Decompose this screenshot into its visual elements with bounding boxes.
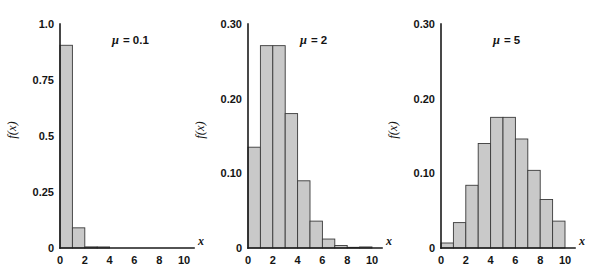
bar xyxy=(491,117,503,248)
bar xyxy=(72,228,84,248)
y-tick-label: 0.75 xyxy=(33,74,54,86)
bars-group xyxy=(60,45,110,248)
bar xyxy=(503,117,515,248)
bar xyxy=(322,239,334,248)
x-tick-label: 8 xyxy=(344,254,350,266)
poisson-distribution-figure: 00.250.50.751.00246810xf(x)μ= 0.100.100.… xyxy=(0,0,595,280)
x-tick-label: 8 xyxy=(537,254,543,266)
y-tick-label: 1.0 xyxy=(39,18,54,30)
y-tick-labels: 00.100.200.30 xyxy=(221,18,242,254)
x-tick-label: 0 xyxy=(57,254,63,266)
bar xyxy=(273,46,285,248)
x-tick-label: 2 xyxy=(463,254,469,266)
mu-equals-value: = 5 xyxy=(504,34,521,46)
y-tick-label: 0 xyxy=(236,242,242,254)
x-tick-label: 6 xyxy=(512,254,518,266)
y-tick-label: 0.30 xyxy=(414,18,435,30)
bar xyxy=(478,143,490,248)
mu-annotation: μ= 5 xyxy=(492,33,521,47)
x-axis-label: x xyxy=(385,234,392,248)
mu-annotation: μ= 0.1 xyxy=(111,33,149,47)
y-tick-label: 0.20 xyxy=(414,93,435,105)
mu-symbol: μ xyxy=(492,33,500,47)
x-tick-label: 8 xyxy=(156,254,162,266)
mu-equals-value: = 0.1 xyxy=(123,34,150,46)
bar xyxy=(466,185,478,248)
mu-equals-value: = 2 xyxy=(311,34,327,46)
y-tick-label: 0.25 xyxy=(33,186,54,198)
chart-panel-3: 00.100.200.300246810xf(x)μ= 5 xyxy=(386,18,585,266)
x-tick-label: 2 xyxy=(270,254,276,266)
bar xyxy=(553,221,565,248)
x-tick-label: 6 xyxy=(319,254,325,266)
x-axis-label: x xyxy=(197,234,204,248)
y-tick-label: 0.10 xyxy=(221,167,242,179)
bar xyxy=(298,181,310,248)
x-tick-label: 10 xyxy=(559,254,571,266)
bar xyxy=(515,139,527,248)
x-tick-label: 10 xyxy=(178,254,190,266)
x-tick-labels: 0246810 xyxy=(57,254,190,266)
x-tick-labels: 0246810 xyxy=(438,254,571,266)
x-tick-label: 0 xyxy=(438,254,444,266)
y-tick-labels: 00.250.50.751.0 xyxy=(33,18,54,254)
chart-panel-2: 00.100.200.300246810xf(x)μ= 2 xyxy=(193,18,392,266)
x-tick-label: 4 xyxy=(295,254,302,266)
bar xyxy=(310,221,322,248)
x-tick-labels: 0246810 xyxy=(245,254,378,266)
chart-panel-1: 00.250.50.751.00246810xf(x)μ= 0.1 xyxy=(5,18,204,266)
poisson-panels-svg: 00.250.50.751.00246810xf(x)μ= 0.100.100.… xyxy=(0,0,595,280)
y-axis-label: f(x) xyxy=(193,121,207,138)
y-tick-label: 0.10 xyxy=(414,167,435,179)
y-tick-labels: 00.100.200.30 xyxy=(414,18,435,254)
y-tick-label: 0.20 xyxy=(221,93,242,105)
mu-symbol: μ xyxy=(299,33,307,47)
bar xyxy=(453,223,465,248)
x-tick-label: 2 xyxy=(82,254,88,266)
y-tick-label: 0 xyxy=(48,242,54,254)
x-tick-label: 4 xyxy=(107,254,114,266)
x-tick-label: 4 xyxy=(488,254,495,266)
mu-annotation: μ= 2 xyxy=(299,33,327,47)
y-tick-label: 0.5 xyxy=(39,130,54,142)
bar xyxy=(260,46,272,248)
x-tick-label: 6 xyxy=(131,254,137,266)
x-tick-label: 10 xyxy=(366,254,378,266)
x-axis-label: x xyxy=(578,234,585,248)
y-axis-label: f(x) xyxy=(5,121,19,138)
y-axis-label: f(x) xyxy=(386,121,400,138)
bar xyxy=(60,45,72,248)
bar xyxy=(540,199,552,248)
bar xyxy=(528,170,540,248)
bars-group xyxy=(441,117,565,248)
y-tick-label: 0.30 xyxy=(221,18,242,30)
bar xyxy=(285,114,297,248)
y-tick-label: 0 xyxy=(429,242,435,254)
mu-symbol: μ xyxy=(111,33,119,47)
bar xyxy=(248,147,260,248)
x-tick-label: 0 xyxy=(245,254,251,266)
bars-group xyxy=(248,46,372,248)
